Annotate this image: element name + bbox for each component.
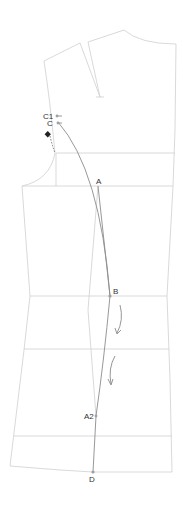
label-d: D — [89, 475, 95, 484]
hem-line — [10, 466, 172, 472]
curved-arrow-icon — [117, 305, 121, 333]
pattern-outline — [10, 30, 176, 472]
dart-left-lower — [88, 310, 96, 416]
pattern-diagram: C1 C A B A2 D — [0, 0, 184, 509]
point-c — [57, 122, 60, 125]
armhole-curve — [22, 153, 55, 186]
arrows — [108, 305, 121, 385]
curve-c-to-b — [58, 122, 110, 296]
point-a2 — [95, 415, 98, 418]
label-a: A — [96, 177, 102, 186]
construction-lines — [56, 116, 110, 472]
label-c: C — [47, 119, 53, 128]
point-d — [91, 470, 94, 473]
point-c1 — [56, 115, 59, 118]
left-shoulder-dart — [44, 43, 100, 97]
left-armhole-upper — [44, 61, 55, 153]
line-a-to-b — [98, 186, 110, 296]
left-seam — [10, 186, 30, 466]
curve-b-to-a2 — [96, 296, 110, 416]
neckline — [124, 30, 176, 44]
right-shoulder-dart — [88, 30, 124, 97]
right-seam — [167, 44, 176, 472]
line-a2-to-d — [93, 416, 96, 472]
label-a2: A2 — [84, 412, 94, 421]
label-b: B — [113, 287, 118, 296]
point-b — [108, 294, 111, 297]
